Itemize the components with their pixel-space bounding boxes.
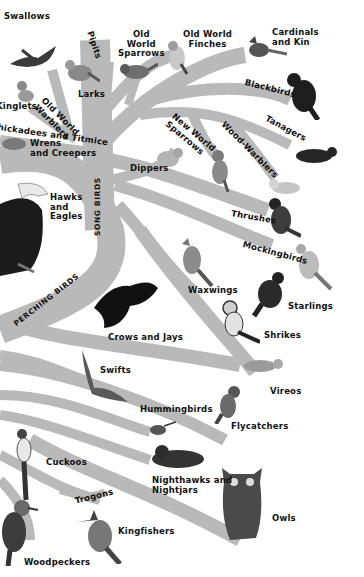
label-crows-jays: Crows and Jays (108, 333, 183, 343)
label-hawks-eagles: Hawks and Eagles (50, 193, 83, 222)
sparrow-icon (118, 60, 158, 84)
swift-icon (80, 350, 130, 404)
new-world-sparrow-icon (208, 148, 232, 192)
label-old-world-sparrows: Old World Sparrows (118, 30, 165, 59)
label-nighthawks: Nighthawks and Nightjars (152, 476, 232, 495)
mockingbird-icon (293, 243, 333, 291)
label-shrikes: Shrikes (264, 331, 301, 341)
label-woodpeckers: Woodpeckers (24, 558, 90, 568)
label-larks: Larks (78, 90, 105, 100)
label-swifts: Swifts (100, 366, 131, 376)
vireo-icon (240, 356, 286, 376)
label-cardinals: Cardinals and Kin (272, 28, 319, 47)
label-cuckoos: Cuckoos (46, 458, 87, 468)
label-kingfishers: Kingfishers (118, 527, 175, 537)
waxwing-icon (178, 238, 214, 288)
wren-icon (0, 134, 28, 154)
warbler-icon (268, 176, 308, 198)
bird-family-tree: Swallows Pipits Old World Sparrows Old W… (0, 0, 364, 577)
group-label-song-birds: SONG BIRDS (93, 177, 103, 236)
swallow-icon (8, 40, 58, 70)
shrike-icon (220, 300, 260, 344)
label-kinglets: Kinglets (0, 102, 37, 112)
hummingbird-icon (146, 418, 176, 440)
eagle-icon (0, 180, 48, 280)
flycatcher-icon (212, 384, 244, 424)
label-dippers: Dippers (130, 164, 169, 174)
label-vireos: Vireos (270, 387, 301, 397)
nighthawk-icon (150, 444, 210, 470)
label-owls: Owls (272, 514, 296, 524)
crow-icon (90, 278, 160, 330)
label-waxwings: Waxwings (188, 286, 238, 296)
label-old-world-finches: Old World Finches (183, 30, 232, 49)
cuckoo-icon (12, 428, 36, 500)
label-hummingbirds: Hummingbirds (140, 405, 213, 415)
label-starlings: Starlings (288, 302, 333, 312)
tanager-icon (292, 144, 340, 166)
label-flycatchers: Flycatchers (231, 422, 288, 432)
label-wrens: Wrens and Creepers (30, 139, 96, 158)
label-swallows: Swallows (4, 12, 50, 22)
